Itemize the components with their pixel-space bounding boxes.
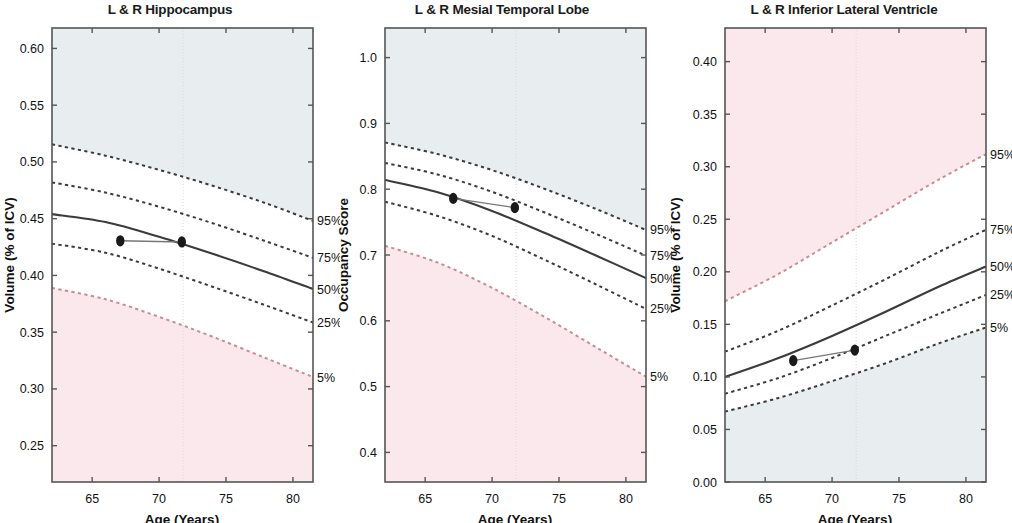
percentile-label-50pct: 50%: [990, 260, 1012, 274]
x-axis-tick-label: 65: [418, 492, 432, 506]
subject-data-point-1[interactable]: [789, 355, 797, 366]
subject-data-point-1[interactable]: [449, 193, 457, 204]
y-axis-label: Volume (% of ICV): [668, 197, 683, 312]
chart-panel-inferior-lateral-ventricle: L & R Inferior Lateral Ventricle 0.000.0…: [664, 0, 1012, 523]
y-axis-label: Occupancy Score: [336, 197, 351, 312]
x-axis-tick-label: 80: [286, 492, 300, 506]
y-axis-tick-label: 0.35: [693, 108, 717, 122]
plot-area-hippocampus: 0.250.300.350.400.450.500.550.6065707580…: [0, 0, 340, 523]
x-axis-tick-label: 75: [892, 492, 906, 506]
subject-data-point-2[interactable]: [851, 345, 859, 356]
plot-area-inferior-lateral-ventricle: 0.000.050.100.150.200.250.300.350.406570…: [664, 0, 1012, 523]
chart-panel-hippocampus: L & R Hippocampus 0.250.300.350.400.450.…: [0, 0, 340, 523]
y-axis-tick-label: 0.05: [693, 423, 717, 437]
x-axis-tick-label: 75: [219, 492, 233, 506]
y-axis-tick-label: 0.10: [693, 370, 717, 384]
y-axis-tick-label: 0.20: [693, 265, 717, 279]
plot-interior: [385, 28, 646, 482]
subject-data-point-1[interactable]: [116, 235, 124, 246]
y-axis-tick-label: 0.5: [360, 380, 377, 394]
x-axis-tick-label: 80: [959, 492, 973, 506]
y-axis-tick-label: 0.55: [20, 99, 44, 113]
x-axis-tick-label: 65: [758, 492, 772, 506]
y-axis-tick-label: 0.40: [20, 269, 44, 283]
x-axis-label: Age (Years): [818, 512, 892, 523]
y-axis-tick-label: 0.30: [20, 382, 44, 396]
y-axis-tick-label: 0.9: [360, 117, 377, 131]
plot-interior: [725, 28, 986, 482]
y-axis-tick-label: 0.8: [360, 183, 377, 197]
y-axis-tick-label: 0.7: [360, 249, 377, 263]
y-axis-tick-label: 1.0: [360, 51, 377, 65]
x-axis-tick-label: 70: [825, 492, 839, 506]
y-axis-tick-label: 0.30: [693, 160, 717, 174]
y-axis-label: Volume (% of ICV): [2, 197, 17, 312]
subject-data-point-2[interactable]: [511, 202, 519, 213]
chart-panel-mesial-temporal-lobe: L & R Mesial Temporal Lobe 0.40.50.60.70…: [332, 0, 672, 523]
y-axis-tick-label: 0.6: [360, 314, 377, 328]
y-axis-tick-label: 0.35: [20, 326, 44, 340]
y-axis-tick-label: 0.4: [360, 446, 377, 460]
x-axis-tick-label: 80: [619, 492, 633, 506]
y-axis-tick-label: 0.60: [20, 42, 44, 56]
y-axis-tick-label: 0.45: [20, 212, 44, 226]
y-axis-tick-label: 0.50: [20, 155, 44, 169]
x-axis-tick-label: 70: [485, 492, 499, 506]
y-axis-tick-label: 0.25: [693, 213, 717, 227]
percentile-label-5pct: 5%: [990, 321, 1008, 335]
y-axis-tick-label: 0.15: [693, 318, 717, 332]
plot-interior: [52, 28, 313, 482]
y-axis-tick-label: 0.40: [693, 55, 717, 69]
normative-percentile-chart-figure: L & R Hippocampus 0.250.300.350.400.450.…: [0, 0, 1012, 523]
percentile-label-95pct: 95%: [990, 148, 1012, 162]
percentile-label-25pct: 25%: [990, 288, 1012, 302]
percentile-label-75pct: 75%: [990, 223, 1012, 237]
x-axis-tick-label: 65: [85, 492, 99, 506]
plot-area-mesial-temporal-lobe: 0.40.50.60.70.80.91.06570758095%75%50%25…: [332, 0, 672, 523]
subject-data-point-2[interactable]: [178, 236, 186, 247]
y-axis-tick-label: 0.00: [693, 476, 717, 490]
x-axis-tick-label: 75: [552, 492, 566, 506]
x-axis-label: Age (Years): [478, 512, 552, 523]
y-axis-tick-label: 0.25: [20, 439, 44, 453]
x-axis-label: Age (Years): [145, 512, 219, 523]
x-axis-tick-label: 70: [152, 492, 166, 506]
